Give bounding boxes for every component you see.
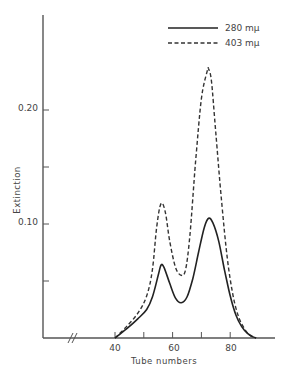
- x-tick-label-60: 60: [168, 343, 180, 353]
- x-tick-label-40: 40: [109, 343, 121, 353]
- series-403-line: [115, 68, 256, 338]
- y-ticks: [43, 110, 49, 281]
- x-axis-title: Tube numbers: [130, 356, 197, 366]
- chromatogram-chart: 0.20 0.10 40 60 80 Tube numbers Extincti…: [0, 0, 289, 370]
- y-tick-label-010: 0.10: [18, 217, 38, 227]
- legend: 280 mμ 403 mμ: [168, 23, 260, 48]
- legend-label-280: 280 mμ: [225, 23, 260, 33]
- y-tick-label-020: 0.20: [18, 103, 38, 113]
- x-ticks: [115, 332, 230, 338]
- y-axis-title: Extinction: [12, 166, 22, 213]
- series-280-line: [115, 218, 256, 338]
- legend-label-403: 403 mμ: [225, 38, 260, 48]
- x-tick-label-80: 80: [225, 343, 237, 353]
